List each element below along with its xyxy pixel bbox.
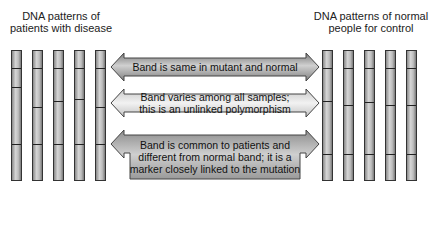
arrow-label-1: Band is same in mutant and normal xyxy=(124,61,306,73)
arrow-label-2: Band varies among all samples; this is a… xyxy=(124,91,306,115)
arrow-label-line: marker closely linked to the mutation xyxy=(124,163,306,175)
arrow-label-line: this is an unlinked polymorphism xyxy=(124,103,306,115)
arrow-label-line: Band varies among all samples; xyxy=(124,91,306,103)
arrow-label-line: Band is common to patients and xyxy=(124,139,306,151)
arrow-label-line: Band is same in mutant and normal xyxy=(124,61,306,73)
arrow-label-3: Band is common to patients and different… xyxy=(124,139,306,175)
arrow-label-line: different from normal band; it is a xyxy=(124,151,306,163)
